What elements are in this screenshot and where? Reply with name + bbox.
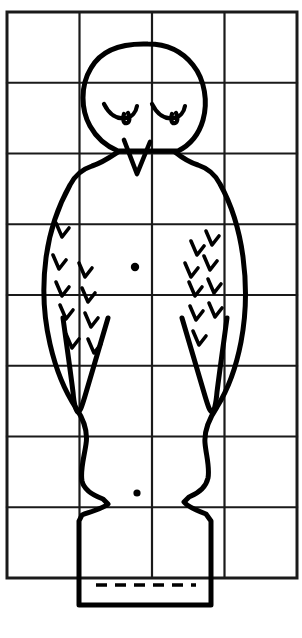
belly-dot <box>133 489 140 496</box>
chest-dot <box>131 263 139 271</box>
drawing-canvas: Penguin Grid Drawing Template <box>0 0 302 638</box>
penguin-grid-drawing <box>0 0 302 638</box>
